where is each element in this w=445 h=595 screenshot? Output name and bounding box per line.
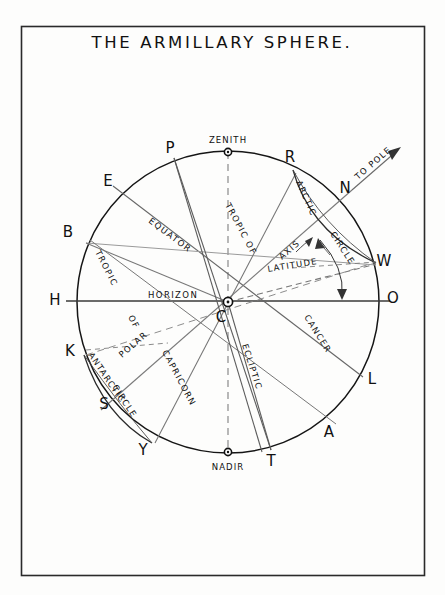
horizon-label: HORIZON xyxy=(148,290,198,300)
center-marker-dot xyxy=(227,301,230,304)
page-title: THE ARMILLARY SPHERE. xyxy=(91,33,353,52)
antarctic-polar-label: POLAR xyxy=(117,329,150,359)
point-label-S: S xyxy=(99,395,109,413)
arctic-label: ARCTIC xyxy=(294,179,319,218)
tropic-of-cancer-chord-2 xyxy=(228,264,376,302)
nadir-label: NADIR xyxy=(212,462,245,472)
zenith-marker-dot xyxy=(227,151,229,153)
ecliptic-line xyxy=(228,302,271,450)
tropic-of-cancer-line xyxy=(86,243,376,265)
point-label-T: T xyxy=(265,452,276,470)
latitude-arc-arrow-bottom xyxy=(337,289,347,300)
axis-angle-arrowhead xyxy=(305,237,313,247)
point-label-N: N xyxy=(339,179,350,197)
point-label-E: E xyxy=(103,172,112,190)
point-label-W: W xyxy=(377,252,392,270)
point-label-A: A xyxy=(324,423,335,441)
zenith-label: ZENITH xyxy=(209,135,247,145)
to-pole-label: TO POLE xyxy=(352,144,393,182)
point-label-O: O xyxy=(387,289,399,307)
line-P-to-T xyxy=(174,158,271,450)
tropic-of-capricorn-prefix-label: TROPIC xyxy=(93,247,120,287)
diagram-page: THE ARMILLARY SPHERE. xyxy=(0,0,445,595)
tropic-of-capricorn-name-label: CAPRICORN xyxy=(160,348,198,407)
point-label-R: R xyxy=(285,148,295,166)
point-label-H: H xyxy=(49,291,60,309)
point-label-L: L xyxy=(368,370,377,388)
tropic-of-capricorn-of-label: OF xyxy=(126,313,141,330)
armillary-sphere-figure: THE ARMILLARY SPHERE. xyxy=(0,0,445,595)
point-label-Y: Y xyxy=(137,441,148,459)
line-P-to-center-T xyxy=(174,158,262,452)
point-label-C: C xyxy=(216,308,226,326)
nadir-marker-dot xyxy=(227,451,229,453)
point-label-K: K xyxy=(65,342,76,360)
point-label-B: B xyxy=(63,223,73,241)
point-label-P: P xyxy=(165,139,174,157)
